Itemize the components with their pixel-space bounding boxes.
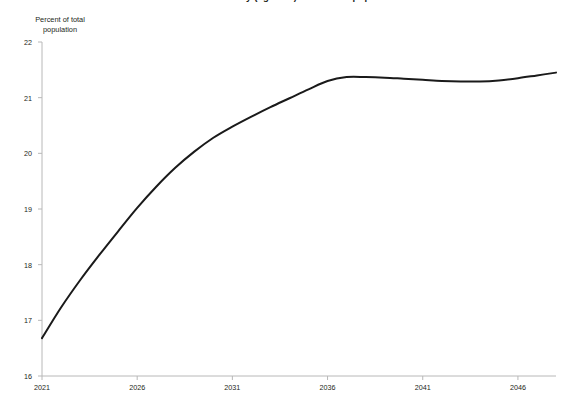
x-axis-tick-label: 2026 xyxy=(129,383,145,392)
x-axis-tick-label: 2046 xyxy=(510,383,526,392)
y-axis-tick-label: 18 xyxy=(14,260,32,269)
chart-canvas: Share of the elderly (age 65+) in the to… xyxy=(0,0,563,411)
y-axis-tick-label: 19 xyxy=(14,205,32,214)
y-axis-tick-label: 20 xyxy=(14,149,32,158)
x-axis-tick-label: 2021 xyxy=(34,383,50,392)
x-axis-tick-label: 2036 xyxy=(320,383,336,392)
y-axis-tick-label: 16 xyxy=(14,372,32,381)
x-axis-tick-label: 2031 xyxy=(224,383,240,392)
data-series-line xyxy=(42,73,556,339)
y-axis-tick-label: 22 xyxy=(14,38,32,47)
plot-area xyxy=(0,0,563,411)
y-axis-tick-label: 21 xyxy=(14,93,32,102)
x-axis-tick-label: 2041 xyxy=(415,383,431,392)
x-axis-ticks xyxy=(42,376,518,380)
axis-lines xyxy=(42,42,556,376)
y-axis-ticks xyxy=(38,42,42,376)
y-axis-tick-label: 17 xyxy=(14,316,32,325)
